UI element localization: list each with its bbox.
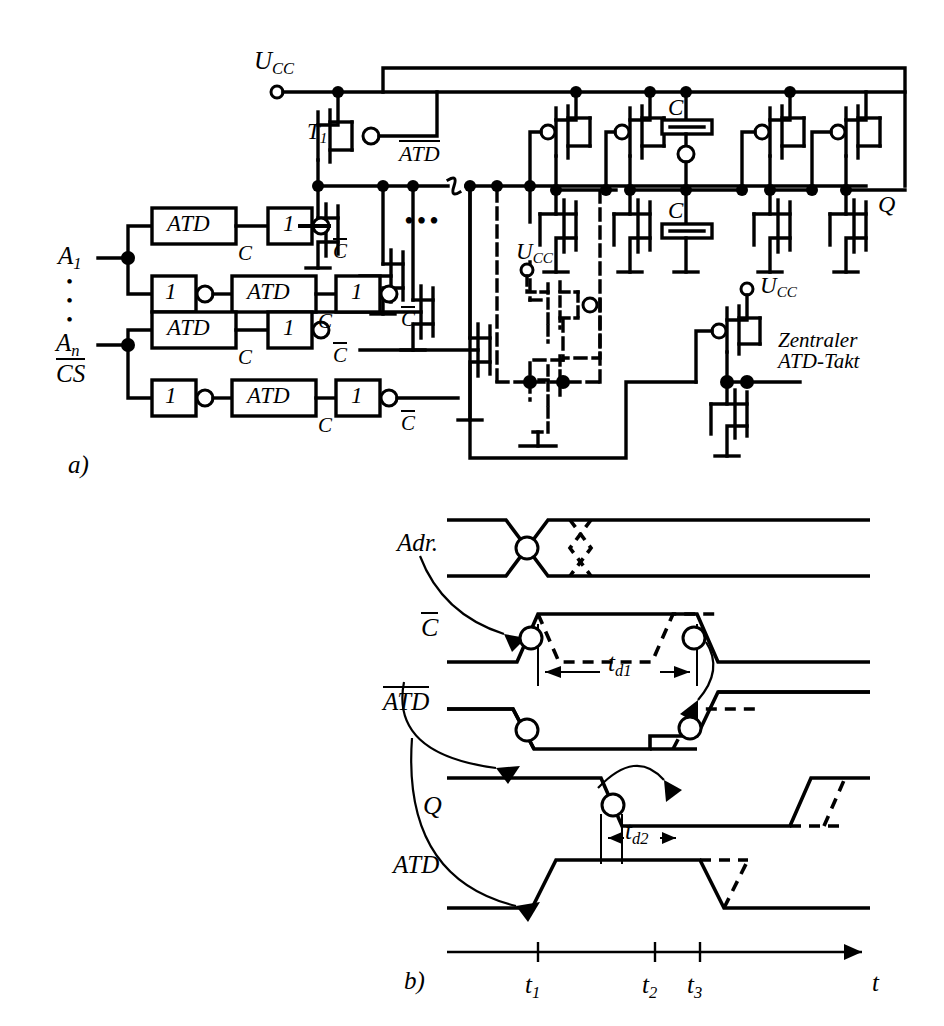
- vertical-dots-icon: • • •: [66, 272, 73, 329]
- q-output-label: Q: [878, 192, 895, 216]
- atd-bar-node-label: ATD: [399, 140, 440, 165]
- signal-label-atd: ATD: [393, 852, 439, 877]
- figure-root: UCC T1 ATD Q C C UCC UCC Zentraler ATD-T…: [0, 0, 944, 1026]
- delay-td2-label: td2: [625, 818, 648, 847]
- atd-block-4: ATD: [247, 384, 290, 407]
- tick-label-t2: t2: [642, 972, 657, 1001]
- delay-td1-label: td1: [608, 650, 631, 679]
- timing-diagram: [0, 496, 944, 1026]
- part-a-label: a): [68, 452, 89, 477]
- signal-label-cbar: C: [421, 612, 438, 641]
- inv-block-4b: 1: [351, 384, 363, 407]
- c-label-4: C: [318, 415, 332, 436]
- ucc-label-c: UCC: [760, 274, 797, 299]
- tick-label-t1: t1: [525, 972, 540, 1001]
- atd-block-1: ATD: [167, 212, 210, 235]
- c-label-1: C: [238, 243, 252, 264]
- signal-label-q: Q: [423, 793, 442, 819]
- atd-block-2: ATD: [247, 280, 290, 303]
- ucc-label-a: UCC: [254, 48, 294, 77]
- atd-block-3: ATD: [167, 316, 210, 339]
- inv-block-3: 1: [283, 316, 295, 339]
- c-label-2: C: [318, 311, 332, 332]
- inv-block-1: 1: [283, 212, 295, 235]
- ucc-terminal-a: [271, 86, 283, 98]
- axis-label-t: t: [872, 970, 879, 995]
- input-a1-label: A1: [58, 243, 82, 272]
- input-cs-label: CS: [56, 358, 85, 386]
- part-b-label: b): [404, 968, 425, 993]
- signal-label-adr: Adr.: [397, 530, 438, 555]
- cbar-label-1: C: [333, 238, 347, 262]
- cbar-label-3: C: [333, 342, 347, 366]
- tick-label-t3: t3: [687, 972, 702, 1001]
- inv-block-2: 1: [165, 280, 177, 303]
- inv-block-2b: 1: [351, 280, 363, 303]
- cbar-label-2: C: [401, 306, 415, 330]
- t1-label: T1: [307, 120, 327, 145]
- inv-block-4: 1: [165, 384, 177, 407]
- cap-label-bottom: C: [668, 199, 683, 222]
- input-an-label: An: [56, 330, 80, 359]
- ucc-label-b: UCC: [516, 240, 553, 265]
- circuit-schematic: [0, 0, 944, 500]
- cap-label-top: C: [668, 96, 683, 119]
- central-clock-label: Zentraler ATD-Takt: [778, 330, 859, 372]
- c-label-3: C: [238, 347, 252, 368]
- signal-label-atdbar: ATD: [383, 686, 429, 714]
- cbar-label-4: C: [401, 410, 415, 434]
- ellipsis-icon: •••: [404, 208, 441, 235]
- ucc-terminal-b: [521, 264, 533, 276]
- ucc-terminal-c: [741, 283, 753, 295]
